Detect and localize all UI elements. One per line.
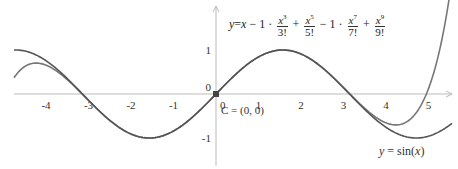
frac-exp: 7 (353, 13, 357, 21)
x-tick-label: 4 (383, 99, 389, 111)
point-c-label: C = (0, 0) (221, 104, 264, 116)
y-tick-label: 1 (206, 44, 212, 56)
frac-exp: 9 (381, 13, 385, 21)
frac-den: 5! (305, 27, 314, 38)
frac-x3: x33! (277, 12, 287, 38)
x-tick-label: 5 (426, 99, 432, 111)
x-tick-label: 3 (341, 99, 347, 111)
frac-exp: 5 (310, 13, 314, 21)
frac-exp: 3 (283, 13, 287, 21)
formula-op: · (339, 17, 343, 32)
y-tick-label: -1 (202, 132, 211, 144)
x-tick-label: -2 (126, 99, 135, 111)
formula-coef: 1 (330, 17, 336, 32)
frac-den: 9! (375, 27, 384, 38)
formula-op: + (293, 17, 300, 32)
frac-den: 3! (278, 27, 287, 38)
frac-den: 7! (348, 27, 357, 38)
sine-function-label: y = sin(x) (379, 144, 424, 159)
taylor-formula-label: y = x − 1 · x33! + x55! − 1 · x77! + x99… (229, 12, 387, 38)
sin-rest: = sin( (384, 144, 415, 158)
sin-close: ) (420, 144, 424, 158)
frac-x9: x99! (375, 12, 385, 38)
point-c[interactable] (213, 91, 219, 97)
x-tick-label: -1 (169, 99, 178, 111)
formula-op: + (363, 17, 370, 32)
frac-x7: x77! (348, 12, 358, 38)
x-tick-label: -4 (41, 99, 51, 111)
frac-x5: x55! (304, 12, 314, 38)
formula-coef: 1 (259, 17, 265, 32)
formula-op: − (249, 17, 256, 32)
formula-x: x (241, 17, 246, 32)
formula-op: − (320, 17, 327, 32)
formula-op: · (268, 17, 272, 32)
x-tick-label: 2 (298, 99, 304, 111)
y-tick-label: 0 (206, 81, 212, 93)
